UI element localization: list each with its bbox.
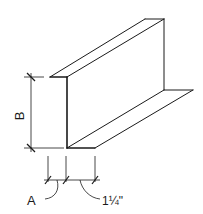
dimension-a-label: A: [27, 193, 36, 208]
z-channel-outline: [50, 19, 193, 148]
z-channel-drawing: B A 1¼": [0, 0, 203, 214]
dimension-b-label: B: [12, 112, 27, 121]
dimension-b: [24, 73, 64, 152]
flange-width-label: 1¼": [102, 194, 123, 208]
dimension-bottom: [44, 156, 100, 199]
